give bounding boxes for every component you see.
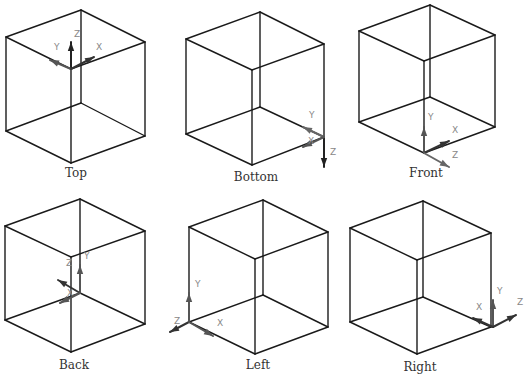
cube-edge: [430, 5, 495, 35]
cube-edge: [255, 232, 328, 259]
cube-edge: [186, 12, 260, 39]
axis-label-z: Z: [330, 147, 336, 157]
cube-edge: [255, 327, 328, 354]
axis-label-x: X: [452, 125, 458, 135]
arrow-z-icon: [507, 315, 516, 322]
cube-edge: [186, 39, 252, 70]
axis-triad-icon: YXZ: [473, 286, 523, 327]
cube-edge: [80, 293, 145, 324]
arrow-z-icon: [58, 280, 67, 287]
arrow-z-icon: [321, 158, 327, 167]
cube-edge: [260, 12, 324, 44]
axis-label-y: Y: [53, 42, 60, 52]
cube-edge: [5, 199, 80, 226]
axis-triad-icon: ZYX: [303, 110, 336, 167]
view-front: YXZ: [359, 5, 495, 167]
arrow-x-icon: [473, 318, 483, 325]
cube-edge: [189, 295, 263, 322]
cube-edge: [5, 226, 71, 257]
cube-edge: [80, 199, 145, 231]
cube-edge: [81, 103, 145, 136]
view-top: ZYX: [6, 10, 145, 163]
axis-label-x: X: [476, 302, 482, 312]
cube-edge: [350, 297, 423, 322]
cube-edge: [189, 227, 255, 259]
view-caption-left: Left: [246, 358, 270, 372]
view-caption-top: Top: [65, 166, 87, 180]
cube-edge: [350, 201, 423, 228]
cube-edge: [189, 200, 263, 227]
cube-edge: [359, 122, 424, 153]
cube-edge: [417, 327, 491, 354]
cube-edge: [350, 228, 417, 260]
cube-edge: [263, 200, 328, 232]
cube-edge: [350, 322, 417, 354]
arrow-y-icon: [186, 293, 192, 302]
axis-label-y: Y: [83, 251, 90, 261]
arrow-y-icon: [50, 60, 60, 66]
cube-views-diagram: ZYXZYXYXZYZXYZXYXZ: [0, 0, 527, 379]
view-bottom: ZYX: [186, 12, 336, 167]
axis-triad-icon: ZYX: [50, 29, 102, 69]
axis-label-y: Y: [194, 279, 201, 289]
axis-label-x: X: [67, 288, 73, 298]
cube-edge: [71, 324, 145, 352]
cube-edge: [71, 42, 145, 69]
cube-edge: [424, 127, 495, 153]
view-back: YZX: [5, 199, 145, 352]
axis-label-z: Z: [74, 29, 80, 39]
view-caption-bottom: Bottom: [234, 170, 278, 184]
cube-edge: [359, 31, 424, 61]
cube-edge: [359, 97, 430, 122]
view-caption-front: Front: [409, 166, 443, 180]
cube-edge: [252, 44, 324, 70]
cube-edge: [6, 10, 81, 37]
cube-edge: [6, 131, 71, 163]
view-right: YXZ: [350, 201, 523, 354]
view-caption-back: Back: [59, 358, 89, 372]
cube-edge: [359, 5, 430, 31]
cube-edge: [430, 97, 495, 127]
axis-label-z: Z: [174, 316, 180, 326]
arrow-z-icon: [170, 325, 179, 332]
cube-edge: [186, 134, 252, 165]
arrow-y-icon: [303, 127, 313, 134]
axis-label-x: X: [96, 42, 102, 52]
axis-label-z: Z: [452, 150, 458, 160]
view-left: YZX: [170, 200, 328, 354]
cube-edge: [81, 10, 145, 42]
cube-edge: [424, 35, 495, 61]
axis-label-z: Z: [66, 258, 72, 268]
axis-triad-icon: YXZ: [421, 112, 458, 167]
cube-edge: [417, 233, 491, 260]
cube-edge: [263, 295, 328, 327]
view-caption-right: Right: [403, 360, 436, 374]
cube-edge: [71, 136, 145, 163]
cube-edge: [186, 107, 260, 134]
cube-edge: [5, 320, 71, 352]
axis-label-x: X: [308, 136, 314, 146]
axis-label-x: X: [217, 318, 223, 328]
cube-edge: [423, 201, 491, 233]
axis-label-z: Z: [517, 297, 523, 307]
cube-edge: [71, 231, 145, 257]
axis-label-y: Y: [427, 112, 434, 122]
axis-label-y: Y: [496, 286, 503, 296]
arrow-y-icon: [421, 127, 427, 136]
arrow-y-icon: [77, 265, 83, 274]
arrow-z-icon: [68, 42, 74, 51]
axis-triad-icon: YZX: [170, 279, 223, 336]
cube-edge: [6, 103, 81, 131]
axis-label-y: Y: [308, 110, 315, 120]
